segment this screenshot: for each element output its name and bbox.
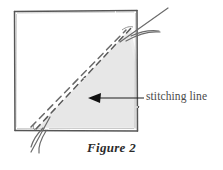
shaded-corner-triangle (37, 28, 137, 129)
stitching-line-annotation-label: stitching line (146, 90, 207, 102)
thread-top-right-icon (120, 8, 168, 42)
figure-illustration: stitching line Figure 2 (0, 0, 223, 170)
figure-caption: Figure 2 (0, 140, 223, 156)
